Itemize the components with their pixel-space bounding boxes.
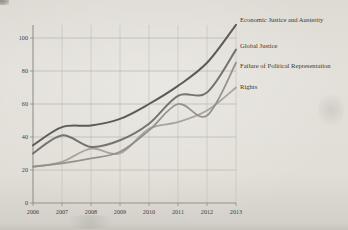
scan-corner-artifact (0, 0, 9, 5)
series-line-economic-justice-and-austerity (33, 25, 236, 146)
x-axis-tick-label: 2012 (201, 208, 213, 215)
y-axis-tick-label: 20 (22, 166, 28, 173)
axis-layer: 0204060801002006200720082009201020112012… (19, 25, 242, 215)
scanned-page: 0204060801002006200720082009201020112012… (0, 0, 348, 230)
series-label-rights: Rights (240, 83, 258, 90)
y-axis-tick-label: 0 (25, 199, 28, 206)
paper-smudge (318, 90, 344, 130)
series-label-economic-justice-and-austerity: Economic Justice and Austerity (240, 16, 324, 23)
paper-smudge (60, 215, 120, 229)
grid-layer (33, 25, 236, 203)
x-axis-tick-label: 2010 (143, 208, 155, 215)
x-axis-tick-label: 2006 (27, 208, 39, 215)
x-axis-tick-label: 2011 (172, 208, 184, 215)
series-label-global-justice: Global Justice (240, 42, 278, 49)
y-axis-tick-label: 60 (22, 100, 28, 107)
y-axis-tick-label: 100 (19, 34, 28, 41)
x-axis-tick-label: 2009 (114, 208, 126, 215)
y-axis-tick-label: 80 (22, 67, 28, 74)
series-label-failure-of-political-representation: Failure of Political Representation (240, 62, 331, 69)
series-labels-layer: Economic Justice and Austerity Global Ju… (240, 16, 331, 90)
series-line-failure-of-political-representation (33, 63, 236, 167)
x-axis-tick-label: 2008 (85, 208, 97, 215)
line-chart: 0204060801002006200720082009201020112012… (0, 0, 348, 230)
x-axis-tick-label: 2007 (56, 208, 68, 215)
series-lines-layer (33, 25, 236, 167)
y-axis-tick-label: 40 (22, 133, 28, 140)
x-axis-tick-label: 2013 (230, 208, 242, 215)
